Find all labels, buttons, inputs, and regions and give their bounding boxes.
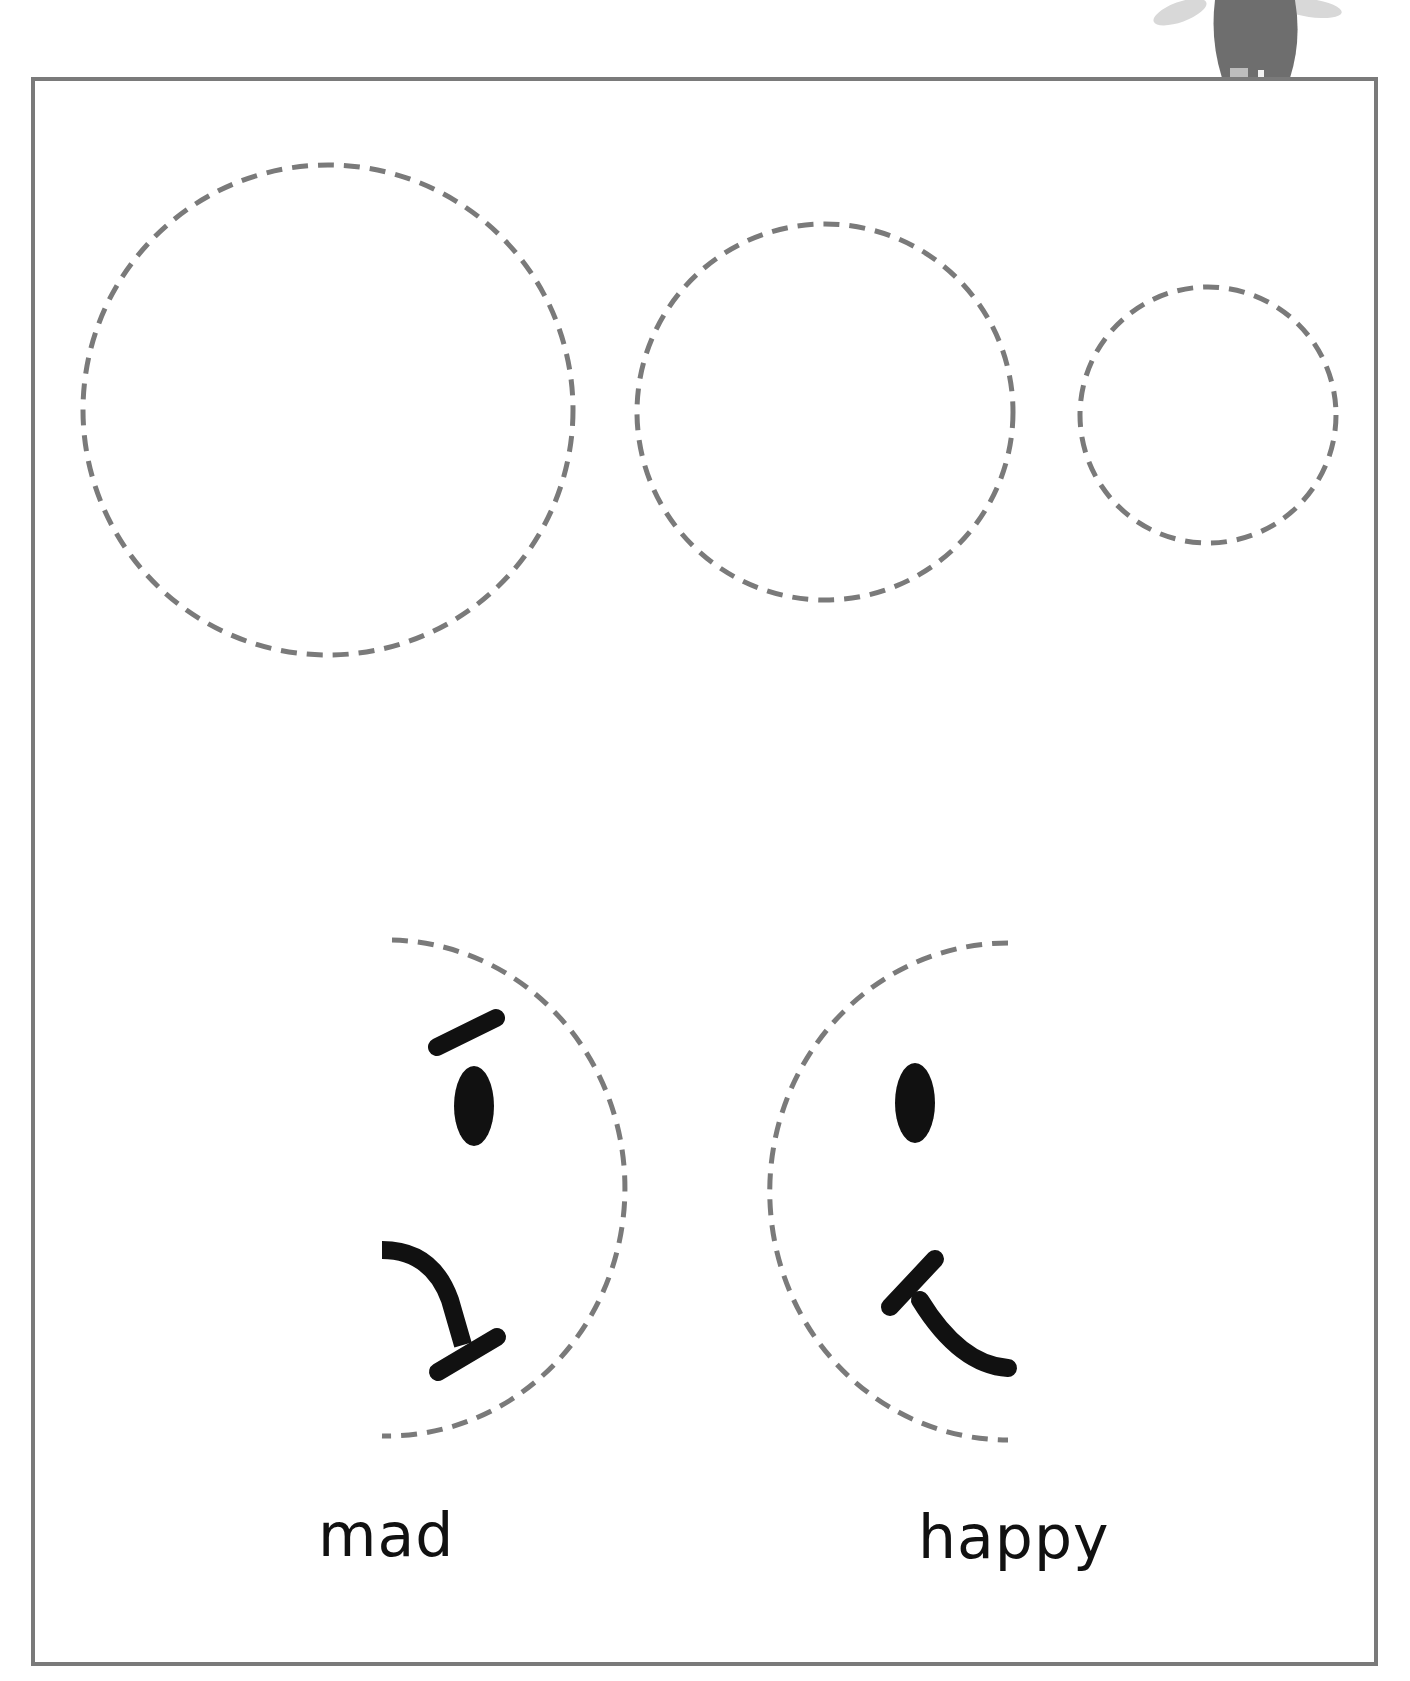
happy-face <box>890 1063 1008 1368</box>
trace-circle-large <box>83 165 573 655</box>
label-mad: mad <box>318 1500 454 1570</box>
tracing-artwork <box>0 0 1410 1681</box>
trace-circle-small <box>1080 287 1336 543</box>
trace-circle-medium <box>637 224 1013 600</box>
label-happy: happy <box>918 1502 1109 1572</box>
mad-eye <box>454 1066 494 1146</box>
happy-mouth <box>920 1300 1008 1368</box>
mad-mouth <box>382 1250 463 1345</box>
happy-eye <box>895 1063 935 1143</box>
mad-eyebrow <box>437 1018 496 1047</box>
mad-face <box>382 1018 497 1372</box>
